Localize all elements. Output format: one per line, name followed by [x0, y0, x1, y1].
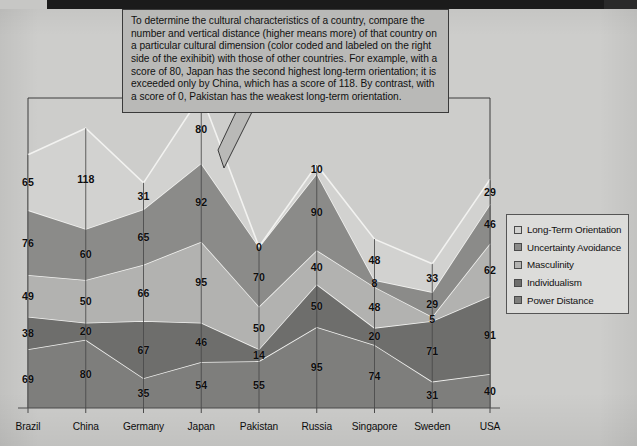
legend-label: Power Distance: [527, 295, 594, 306]
data-value-label: 20: [80, 325, 92, 337]
legend-swatch-icon: [514, 261, 522, 269]
legend-label: Individualism: [527, 277, 582, 288]
data-value-label: 50: [80, 295, 92, 307]
callout-text: To determine the cultural characteristic…: [131, 15, 441, 104]
data-value-label: 29: [484, 186, 496, 198]
data-value-label: 14: [253, 349, 265, 361]
legend-label: Masculinity: [527, 259, 574, 270]
x-axis-label-japan: Japan: [188, 421, 215, 432]
data-value-label: 48: [369, 301, 381, 313]
legend-item: Individualism: [514, 274, 628, 292]
data-value-label: 10: [311, 163, 323, 175]
x-axis-label-brazil: Brazil: [16, 421, 41, 432]
data-value-label: 66: [138, 287, 150, 299]
data-value-label: 0: [256, 241, 262, 253]
data-value-label: 50: [311, 300, 323, 312]
legend-item: Uncertainty Avoidance: [514, 239, 628, 257]
legend-swatch-icon: [514, 279, 522, 287]
legend-item: Power Distance: [514, 291, 628, 309]
data-value-label: 35: [138, 387, 150, 399]
data-value-label: 91: [484, 329, 496, 341]
data-value-label: 65: [22, 176, 34, 188]
data-value-label: 20: [369, 330, 381, 342]
data-value-label: 8: [372, 277, 378, 289]
legend-label: Long-Term Orientation: [527, 224, 621, 235]
data-value-label: 29: [426, 298, 438, 310]
chart-legend: Long-Term OrientationUncertainty Avoidan…: [506, 214, 629, 314]
data-value-label: 67: [138, 344, 150, 356]
data-value-label: 40: [311, 261, 323, 273]
x-axis-label-germany: Germany: [123, 421, 164, 432]
x-axis-label-pakistan: Pakistan: [240, 421, 278, 432]
data-value-label: 38: [22, 327, 34, 339]
data-value-label: 31: [426, 389, 438, 401]
data-value-label: 80: [80, 368, 92, 380]
callout-annotation: To determine the cultural characteristic…: [122, 9, 449, 113]
x-axis-label-russia: Russia: [301, 421, 332, 432]
data-value-label: 31: [138, 190, 150, 202]
data-value-label: 71: [426, 345, 438, 357]
data-value-label: 46: [484, 218, 496, 230]
data-value-label: 48: [369, 254, 381, 266]
legend-swatch-icon: [514, 243, 522, 251]
data-value-label: 33: [426, 272, 438, 284]
data-value-label: 69: [22, 373, 34, 385]
data-value-label: 80: [195, 123, 207, 135]
callout-pointer-tail: [218, 112, 252, 168]
data-value-label: 46: [195, 336, 207, 348]
data-value-label: 90: [311, 206, 323, 218]
data-value-label: 95: [311, 361, 323, 373]
legend-label: Uncertainty Avoidance: [527, 242, 621, 253]
legend-item: Long-Term Orientation: [514, 221, 628, 239]
data-value-label: 60: [80, 248, 92, 260]
data-value-label: 74: [369, 370, 381, 382]
x-axis-label-usa: USA: [480, 421, 501, 432]
data-value-label: 92: [195, 196, 207, 208]
data-value-label: 118: [77, 173, 94, 185]
data-value-label: 40: [484, 385, 496, 397]
legend-swatch-icon: [514, 296, 522, 304]
data-value-label: 65: [138, 231, 150, 243]
legend-swatch-icon: [514, 226, 522, 234]
data-value-label: 95: [195, 276, 207, 288]
data-value-label: 62: [484, 264, 496, 276]
x-axis-label-sweden: Sweden: [414, 421, 450, 432]
data-value-label: 50: [253, 322, 265, 334]
data-value-label: 76: [22, 237, 34, 249]
x-axis-label-china: China: [73, 421, 99, 432]
legend-item: Masculinity: [514, 256, 628, 274]
data-value-label: 49: [22, 290, 34, 302]
data-value-label: 55: [253, 379, 265, 391]
x-axis-label-singapore: Singapore: [352, 421, 398, 432]
data-value-label: 54: [195, 379, 207, 391]
data-value-label: 70: [253, 271, 265, 283]
data-value-label: 5: [429, 313, 435, 325]
